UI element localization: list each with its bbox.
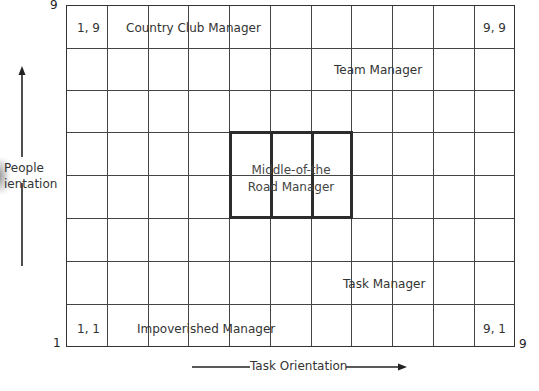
impoverished-manager-label: Impoverished Manager <box>137 322 275 336</box>
task-manager-label: Task Manager <box>343 277 425 291</box>
middle-label-line1: Middle-of-the <box>229 162 353 179</box>
x-axis-arrow-left-icon <box>192 362 252 372</box>
grid-vline <box>188 6 189 346</box>
coord-9-1: 9, 1 <box>483 322 506 336</box>
team-manager-label: Team Manager <box>334 63 422 77</box>
x-axis-max-label: 9 <box>519 337 527 351</box>
grid-hline <box>67 261 514 262</box>
country-club-manager-label: Country Club Manager <box>126 21 261 35</box>
grid-vline <box>474 6 475 346</box>
y-axis-label-line2: ientation <box>4 176 57 192</box>
x-axis-arrow-right-icon <box>346 362 408 372</box>
grid-vline <box>107 6 108 346</box>
grid-vline <box>392 6 393 346</box>
y-axis-label-line1: People <box>4 160 57 176</box>
middle-of-the-road-manager-label: Middle-of-the Road Manager <box>229 162 353 196</box>
grid-hline <box>67 90 514 91</box>
middle-label-line2: Road Manager <box>229 179 353 196</box>
managerial-grid: 1, 9 9, 9 1, 1 9, 1 Country Club Manager… <box>66 5 515 347</box>
y-axis-label: People ientation <box>4 160 57 192</box>
grid-hline <box>67 304 514 305</box>
y-axis-max-label: 9 <box>50 0 58 12</box>
coord-1-1: 1, 1 <box>77 322 100 336</box>
coord-9-9: 9, 9 <box>483 21 506 35</box>
y-axis-min-label: 1 <box>53 336 61 350</box>
grid-vline <box>433 6 434 346</box>
x-axis-label: Task Orientation <box>250 359 347 373</box>
coord-1-9: 1, 9 <box>77 21 100 35</box>
grid-hline <box>67 48 514 49</box>
grid-vline <box>148 6 149 346</box>
